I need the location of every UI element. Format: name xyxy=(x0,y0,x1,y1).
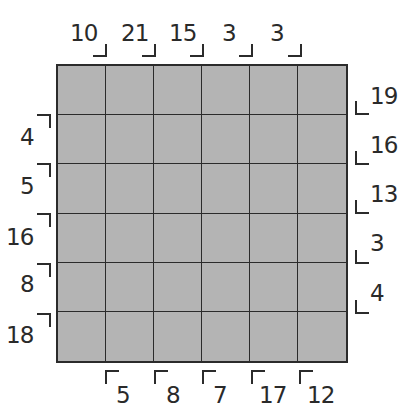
grid-cell[interactable] xyxy=(250,312,298,361)
grid-cell[interactable] xyxy=(202,115,250,164)
grid-cell[interactable] xyxy=(202,66,250,115)
left-clue-3: 16 xyxy=(6,226,33,249)
grid-cell[interactable] xyxy=(106,115,154,164)
grid-cell[interactable] xyxy=(298,263,346,312)
puzzle-grid xyxy=(56,64,348,363)
right-clue-3: 13 xyxy=(370,183,397,206)
grid-cell[interactable] xyxy=(106,164,154,213)
bottom-clue-1: 5 xyxy=(116,384,130,407)
right-clue-2: 16 xyxy=(370,134,397,157)
clue-bracket-icon xyxy=(37,313,51,327)
clue-bracket-icon xyxy=(190,44,204,57)
clue-bracket-icon xyxy=(355,250,369,264)
left-clue-4: 8 xyxy=(20,273,34,296)
clue-bracket-icon xyxy=(288,44,302,57)
bottom-clue-3: 7 xyxy=(213,384,227,407)
grid-cell[interactable] xyxy=(58,115,106,164)
clue-bracket-icon xyxy=(37,263,51,277)
grid-cell[interactable] xyxy=(58,312,106,361)
grid-cell[interactable] xyxy=(58,263,106,312)
grid-cell[interactable] xyxy=(154,263,202,312)
clue-bracket-icon xyxy=(142,44,156,57)
clue-bracket-icon xyxy=(239,44,253,57)
bottom-clue-4: 17 xyxy=(259,384,286,407)
grid-cell[interactable] xyxy=(298,164,346,213)
sum-puzzle: 10 21 15 3 3 4 5 16 8 18 19 16 13 3 4 xyxy=(0,0,401,415)
grid-cell[interactable] xyxy=(154,66,202,115)
grid-cell[interactable] xyxy=(202,263,250,312)
grid-cell[interactable] xyxy=(250,115,298,164)
top-clue-5: 3 xyxy=(270,22,284,45)
grid-cell[interactable] xyxy=(106,214,154,263)
grid-cell[interactable] xyxy=(106,263,154,312)
left-clue-2: 5 xyxy=(20,175,34,198)
grid-cell[interactable] xyxy=(106,312,154,361)
grid-cell[interactable] xyxy=(202,164,250,213)
left-clue-1: 4 xyxy=(20,126,34,149)
grid-cell[interactable] xyxy=(298,66,346,115)
clue-bracket-icon xyxy=(37,213,51,227)
bottom-clue-5: 12 xyxy=(307,384,334,407)
top-clue-4: 3 xyxy=(222,22,236,45)
grid-cell[interactable] xyxy=(250,214,298,263)
clue-bracket-icon xyxy=(37,163,51,177)
top-clue-3: 15 xyxy=(169,22,196,45)
right-clue-1: 19 xyxy=(370,85,397,108)
grid-cell[interactable] xyxy=(58,164,106,213)
grid-cell[interactable] xyxy=(58,66,106,115)
top-clue-2: 21 xyxy=(121,22,148,45)
bottom-clue-2: 8 xyxy=(166,384,180,407)
right-clue-4: 3 xyxy=(370,232,384,255)
grid-cell[interactable] xyxy=(202,214,250,263)
clue-bracket-icon xyxy=(355,101,369,115)
grid-cell[interactable] xyxy=(154,115,202,164)
clue-bracket-icon xyxy=(93,44,107,57)
grid-cell[interactable] xyxy=(250,263,298,312)
clue-bracket-icon xyxy=(37,114,51,128)
grid-cell[interactable] xyxy=(154,164,202,213)
grid-cell[interactable] xyxy=(298,115,346,164)
clue-bracket-icon xyxy=(355,151,369,165)
grid-cell[interactable] xyxy=(202,312,250,361)
grid-cell[interactable] xyxy=(58,214,106,263)
left-clue-5: 18 xyxy=(6,324,33,347)
grid-cell[interactable] xyxy=(298,214,346,263)
grid-cell[interactable] xyxy=(154,214,202,263)
grid-cell[interactable] xyxy=(106,66,154,115)
clue-bracket-icon xyxy=(355,300,369,314)
grid-cell[interactable] xyxy=(250,66,298,115)
grid-cell[interactable] xyxy=(298,312,346,361)
clue-bracket-icon xyxy=(355,200,369,214)
grid-cell[interactable] xyxy=(154,312,202,361)
right-clue-5: 4 xyxy=(370,282,384,305)
grid-cell[interactable] xyxy=(250,164,298,213)
top-clue-1: 10 xyxy=(70,22,97,45)
